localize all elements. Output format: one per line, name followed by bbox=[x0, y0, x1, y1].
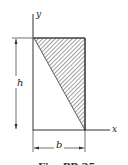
b-arrow-right bbox=[79, 147, 84, 150]
b-label: b bbox=[56, 139, 62, 150]
h-label: h bbox=[17, 77, 23, 88]
b-arrow-left bbox=[34, 147, 39, 150]
y-axis-label: y bbox=[35, 9, 42, 19]
triangle-area-diagram: y x h b Fig. PP-35 bbox=[0, 0, 128, 165]
h-arrow-bottom bbox=[15, 124, 18, 129]
x-axis-label: x bbox=[112, 124, 117, 134]
h-arrow-top bbox=[15, 39, 18, 44]
hatched-triangle bbox=[34, 38, 85, 130]
figure-caption: Fig. PP-35 bbox=[38, 161, 95, 165]
